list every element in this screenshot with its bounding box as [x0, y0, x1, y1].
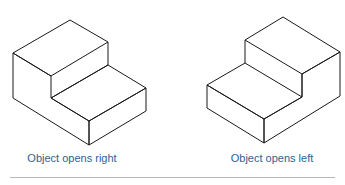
divider — [10, 177, 335, 178]
object-opens-left-drawing — [207, 17, 340, 143]
caption-object-opens-left: Object opens left — [231, 152, 314, 164]
object-opens-right-drawing — [13, 20, 146, 145]
caption-object-opens-right: Object opens right — [27, 152, 116, 164]
